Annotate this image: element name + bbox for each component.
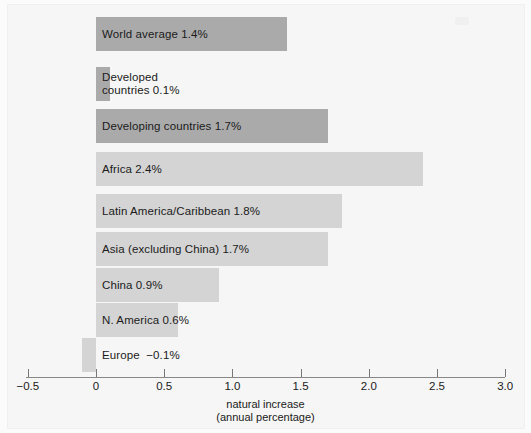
x-axis-title-line2: (annual percentage)	[0, 411, 531, 424]
x-tick-label: 0	[93, 380, 99, 392]
x-tick-label: 1.0	[224, 380, 240, 392]
x-tick	[164, 369, 165, 377]
bar-label-latin-america-caribbean: Latin America/Caribbean 1.8%	[102, 205, 260, 218]
bar-label-china: China 0.9%	[102, 279, 162, 292]
bar-label-line: N. America 0.6%	[102, 314, 189, 327]
bar-label-europe: Europe −0.1%	[102, 349, 180, 362]
axis-line	[26, 377, 505, 378]
bar-label-africa: Africa 2.4%	[102, 163, 162, 176]
bar-label-developed-countries: Developedcountries 0.1%	[102, 71, 179, 97]
plot-area: World average 1.4%Developedcountries 0.1…	[0, 0, 531, 433]
bar-label-line: China 0.9%	[102, 279, 162, 292]
x-tick-label: 2.0	[361, 380, 377, 392]
x-tick	[505, 369, 506, 377]
bar-label-line: Africa 2.4%	[102, 163, 162, 176]
bar-label-n-america: N. America 0.6%	[102, 314, 189, 327]
x-tick	[232, 369, 233, 377]
bar-chart: World average 1.4%Developedcountries 0.1…	[0, 0, 531, 433]
x-tick	[301, 369, 302, 377]
bar-label-developing-countries: Developing countries 1.7%	[102, 120, 241, 133]
x-tick-label: 0.5	[156, 380, 172, 392]
bar-label-line: Asia (excluding China) 1.7%	[102, 243, 249, 256]
x-tick-label: 1.5	[293, 380, 309, 392]
bar-label-world-average: World average 1.4%	[102, 28, 208, 41]
bar-label-line: countries 0.1%	[102, 84, 179, 97]
x-tick	[369, 369, 370, 377]
x-axis-title: natural increase (annual percentage)	[0, 398, 531, 424]
bar-label-line: World average 1.4%	[102, 28, 208, 41]
x-tick	[437, 369, 438, 377]
bar-label-line: Developing countries 1.7%	[102, 120, 241, 133]
bar-europe	[82, 338, 96, 372]
x-tick-label: −0.5	[16, 380, 39, 392]
x-tick-label: 3.0	[497, 380, 513, 392]
x-axis-title-line1: natural increase	[0, 398, 531, 411]
x-tick	[28, 369, 29, 377]
bar-label-line: Developed	[102, 71, 179, 84]
bar-label-asia-excluding-china: Asia (excluding China) 1.7%	[102, 243, 249, 256]
bar-label-line: Latin America/Caribbean 1.8%	[102, 205, 260, 218]
x-tick	[96, 369, 97, 377]
x-tick-label: 2.5	[429, 380, 445, 392]
bar-label-line: Europe −0.1%	[102, 349, 180, 362]
